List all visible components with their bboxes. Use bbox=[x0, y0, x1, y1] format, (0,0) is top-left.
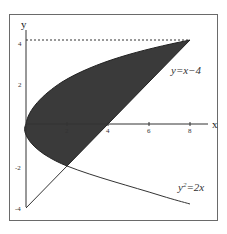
shaded-region bbox=[25, 40, 190, 166]
y-axis-label: y bbox=[21, 18, 27, 30]
x-axis-label: x bbox=[212, 118, 218, 130]
y-tick-2: 2 bbox=[18, 81, 22, 89]
line-y-equals-x-minus-4 bbox=[26, 166, 67, 208]
x-tick-4: 4 bbox=[106, 127, 110, 135]
x-tick-8: 8 bbox=[188, 127, 192, 135]
y-tick-neg4: -4 bbox=[15, 205, 21, 213]
parabola-equation-label: y2=2x bbox=[177, 181, 204, 193]
parabola-lower-branch bbox=[67, 166, 190, 204]
y-tick-4: 4 bbox=[18, 40, 22, 48]
x-tick-6: 6 bbox=[147, 127, 151, 135]
line-equation-label: y=x−4 bbox=[170, 64, 202, 76]
region-diagram: 2 4 6 8 4 2 -2 -4 x y y=x−4 y2=2x bbox=[0, 0, 227, 234]
x-tick-2: 2 bbox=[65, 127, 69, 135]
y-tick-neg2: -2 bbox=[15, 164, 21, 172]
